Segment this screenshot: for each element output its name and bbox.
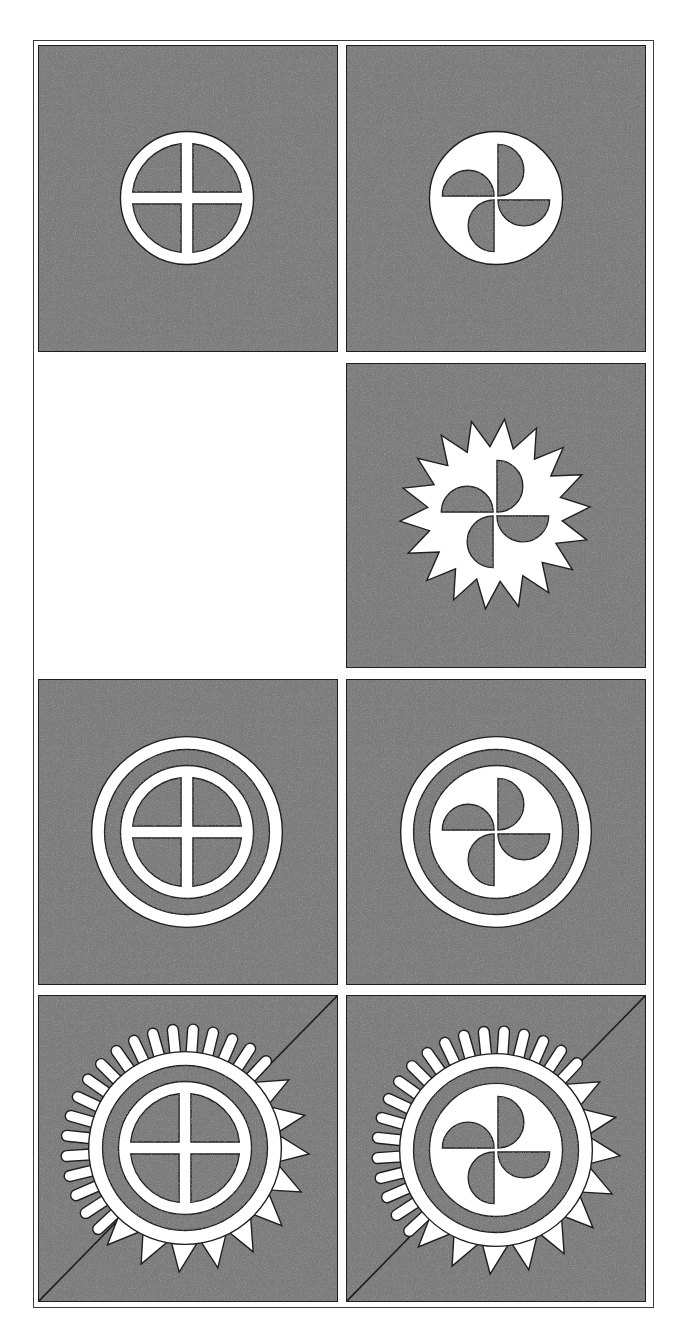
- panel-double-ring-cross: [38, 679, 338, 985]
- panel-sun-ring-pinwheel: [346, 995, 646, 1302]
- panel-sun-ring-cross: [38, 995, 338, 1302]
- symbol-figure: [0, 0, 684, 1336]
- panel-disc-pinwheel: [346, 45, 646, 352]
- empty-cell: [38, 363, 338, 668]
- panel-ring-cross: [38, 45, 338, 352]
- panel-star-pinwheel: [346, 363, 646, 668]
- disc-icon: [429, 131, 562, 264]
- ring-icon: [120, 131, 253, 264]
- panel-double-ring-pinwheel: [346, 679, 646, 985]
